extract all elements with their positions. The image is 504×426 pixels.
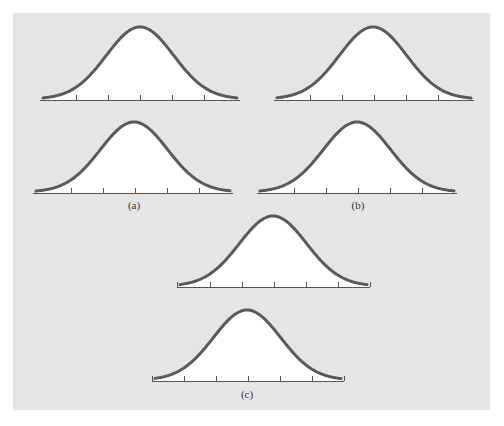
label-b: (b): [338, 199, 378, 211]
normal-curve-4: [257, 122, 457, 194]
normal-curve-2: [33, 122, 233, 194]
normal-curve-6: [152, 310, 345, 382]
label-a: (a): [114, 199, 154, 211]
label-c: (c): [227, 388, 267, 400]
normal-curve-3: [274, 27, 474, 101]
normal-curve-5: [177, 216, 371, 288]
normal-curves-plot: [0, 0, 504, 426]
normal-curve-1: [40, 27, 240, 101]
